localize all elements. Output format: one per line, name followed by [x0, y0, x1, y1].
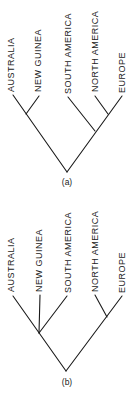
- branch-b-new-guinea: [39, 295, 40, 333]
- branch-b-europe: [66, 296, 122, 371]
- taxon-label-a-north-america: NORTH AMERICA: [90, 11, 100, 92]
- taxon-label-b-north-america: NORTH AMERICA: [90, 211, 100, 292]
- tree-b: AUSTRALIA NEW GUINEA SOUTH AMERICA NORTH…: [6, 211, 127, 387]
- branch-a-north-america: [95, 96, 108, 114]
- branch-a-south-america: [68, 97, 95, 131]
- phylogeny-figure: AUSTRALIA NEW GUINEA SOUTH AMERICA NORTH…: [0, 0, 137, 399]
- panel-label-b: (b): [62, 377, 73, 387]
- branch-a-australia: [13, 95, 67, 172]
- tree-b-branches: [13, 295, 122, 371]
- branch-b-north-america: [95, 295, 107, 317]
- panel-label-a: (a): [62, 177, 73, 187]
- taxon-label-b-new-guinea: NEW GUINEA: [34, 229, 44, 292]
- tree-a-branches: [13, 95, 122, 172]
- taxon-label-a-europe: EUROPE: [117, 52, 127, 93]
- taxon-label-b-australia: AUSTRALIA: [6, 237, 16, 292]
- taxon-label-a-australia: AUSTRALIA: [6, 37, 16, 92]
- taxon-label-a-new-guinea: NEW GUINEA: [33, 29, 43, 92]
- branch-a-europe: [67, 96, 122, 172]
- branch-a-new-guinea: [26, 96, 39, 114]
- taxon-label-a-south-america: SOUTH AMERICA: [63, 13, 73, 94]
- taxon-label-b-europe: EUROPE: [117, 252, 127, 293]
- taxon-label-b-south-america: SOUTH AMERICA: [63, 212, 73, 293]
- tree-a: AUSTRALIA NEW GUINEA SOUTH AMERICA NORTH…: [6, 11, 127, 187]
- branch-b-south-america: [39, 296, 67, 333]
